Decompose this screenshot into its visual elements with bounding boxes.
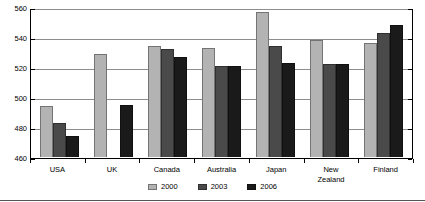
bar-group — [303, 9, 357, 157]
x-axis-label-line: USA — [30, 165, 85, 175]
bar-group — [32, 9, 86, 157]
bar-2006 — [66, 136, 79, 157]
bar-2006 — [336, 64, 349, 157]
bar-group — [249, 9, 303, 157]
x-tick-mark — [194, 159, 195, 163]
x-tick-mark — [139, 159, 140, 163]
x-tick-mark — [413, 159, 414, 163]
plot-area — [30, 9, 413, 159]
legend-swatch-icon — [148, 184, 157, 190]
bar-2000 — [202, 48, 215, 158]
bar-2000 — [40, 106, 53, 157]
x-tick-mark — [85, 159, 86, 163]
y-axis-label-520: 520 — [0, 65, 27, 73]
x-axis-label: UK — [85, 165, 140, 184]
legend-label: 2006 — [260, 183, 277, 191]
y-axis-label-500: 500 — [0, 95, 27, 103]
bar-2006 — [228, 66, 241, 158]
legend-swatch-icon — [198, 184, 207, 190]
bar-2006 — [390, 25, 403, 157]
x-tick-mark — [30, 159, 31, 163]
x-axis-label: Finland — [358, 165, 413, 184]
x-axis-label-line: Australia — [194, 165, 249, 175]
x-axis-label-line: New — [304, 165, 359, 175]
legend-item[interactable]: 2000 — [148, 183, 178, 191]
bar-2000 — [256, 12, 269, 158]
bar-group — [357, 9, 411, 157]
bottom-rule — [0, 200, 425, 201]
bar-2006 — [120, 105, 133, 158]
bar-2003 — [161, 49, 174, 157]
y-axis-label-480: 480 — [0, 125, 27, 133]
bar-group — [194, 9, 248, 157]
bar-group — [86, 9, 140, 157]
legend-item[interactable]: 2006 — [247, 183, 277, 191]
bar-2006 — [174, 57, 187, 158]
bar-2000 — [148, 46, 161, 157]
bar-2003 — [53, 123, 66, 158]
x-axis-label-line: UK — [85, 165, 140, 175]
y-axis-label-560: 560 — [0, 5, 27, 13]
x-axis-label-line: Finland — [358, 165, 413, 175]
bar-2003 — [269, 46, 282, 157]
bar-2006 — [282, 63, 295, 158]
x-axis-label-line: Japan — [249, 165, 304, 175]
legend-label: 2003 — [211, 183, 228, 191]
bar-2000 — [310, 40, 323, 157]
legend-swatch-icon — [247, 184, 256, 190]
bars-layer — [32, 9, 411, 157]
x-tick-mark — [358, 159, 359, 163]
bar-2003 — [377, 33, 390, 158]
legend-item[interactable]: 2003 — [198, 183, 228, 191]
chart-title — [34, 0, 364, 3]
bar-2003 — [323, 64, 336, 157]
bar-2000 — [364, 43, 377, 157]
bar-2000 — [94, 54, 107, 158]
bar-2003 — [215, 66, 228, 158]
y-axis-label-460: 460 — [0, 155, 27, 163]
bar-chart-figure: USAUKCanadaAustraliaJapanNewZealandFinla… — [0, 0, 425, 202]
bar-group — [140, 9, 194, 157]
x-tick-mark — [249, 159, 250, 163]
x-axis-label-line: Canada — [139, 165, 194, 175]
y-axis-label-540: 540 — [0, 35, 27, 43]
x-tick-mark — [304, 159, 305, 163]
legend-label: 2000 — [161, 183, 178, 191]
x-axis-label: USA — [30, 165, 85, 184]
chart-legend: 200020032006 — [0, 183, 425, 191]
x-axis-label: NewZealand — [304, 165, 359, 184]
x-axis-tick-marks — [30, 159, 413, 163]
